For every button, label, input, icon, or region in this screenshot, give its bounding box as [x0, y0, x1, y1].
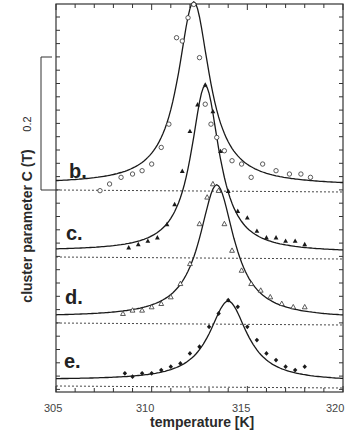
x-axis-label: temperature [K] [150, 414, 254, 430]
y-axis-label: cluster parameter C (T) [19, 141, 35, 311]
curve-label-c: c. [66, 222, 83, 245]
axis-ticks [56, 4, 343, 392]
scale-bar [41, 57, 56, 190]
scale-bar-label: 0.2 [21, 116, 33, 131]
plot-frame [56, 4, 343, 392]
x-tick-315: 315 [232, 402, 250, 414]
chart-canvas [0, 0, 355, 438]
baselines [56, 190, 343, 388]
x-tick-320: 320 [326, 402, 344, 414]
curve-label-d: d. [65, 286, 83, 309]
x-tick-310: 310 [136, 402, 154, 414]
curve-label-b: b. [69, 160, 87, 183]
x-tick-305: 305 [44, 402, 62, 414]
curve-label-e: e. [64, 350, 81, 373]
